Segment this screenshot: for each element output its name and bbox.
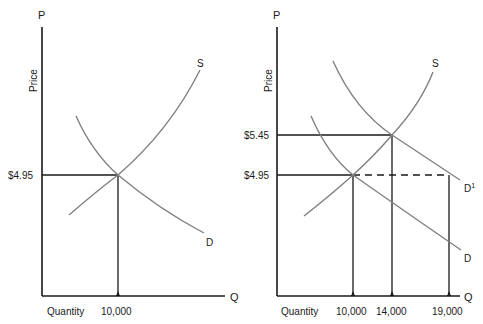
right-tick-marker-19000	[447, 291, 451, 296]
supply-demand-figure: P Price Q S D $4.95 Quantity 10,000 P Pr…	[0, 0, 483, 324]
right-quantity-tick-19000: 19,000	[432, 306, 463, 317]
right-shifted-demand-curve	[333, 61, 460, 180]
right-quantity-tick-14000: 14,000	[376, 306, 407, 317]
left-tick-marker	[116, 291, 120, 296]
right-y-axis-symbol: P	[273, 9, 280, 21]
left-x-axis-symbol: Q	[230, 291, 239, 303]
right-chart: P Price Q S D D1 $5.45 $4.95 Quantity 10…	[244, 9, 475, 317]
left-supply-curve	[69, 70, 200, 215]
left-y-axis-symbol: P	[38, 9, 45, 21]
right-shifted-demand-label: D1	[464, 182, 475, 194]
right-tick-marker-14000	[390, 291, 394, 296]
right-supply-label: S	[432, 58, 439, 69]
right-tick-marker-10000	[351, 291, 355, 296]
left-chart: P Price Q S D $4.95 Quantity 10,000	[8, 9, 239, 317]
left-quantity-tick-label: 10,000	[101, 306, 132, 317]
right-y-axis-label: Price	[263, 69, 274, 92]
right-quantity-tick-10000: 10,000	[336, 306, 367, 317]
left-quantity-label: Quantity	[47, 306, 84, 317]
right-demand-label: D	[464, 253, 471, 264]
right-low-price-tick-label: $4.95	[244, 170, 269, 181]
right-high-price-tick-label: $5.45	[244, 130, 269, 141]
right-x-axis-symbol: Q	[464, 291, 473, 303]
right-supply-curve	[304, 72, 433, 216]
right-demand-curve	[311, 116, 461, 250]
left-price-tick-label: $4.95	[8, 170, 33, 181]
right-quantity-label: Quantity	[281, 306, 318, 317]
left-demand-label: D	[206, 237, 213, 248]
left-y-axis-label: Price	[28, 69, 39, 92]
left-supply-label: S	[197, 58, 204, 69]
